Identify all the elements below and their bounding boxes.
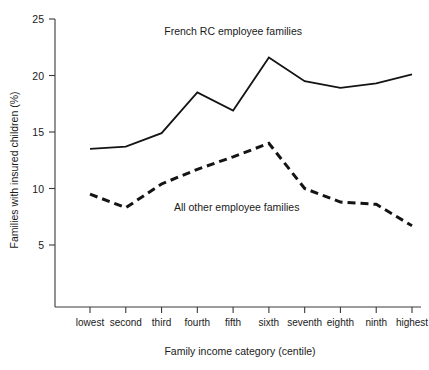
y-axis-title: Families with insured children (%) xyxy=(8,92,20,249)
y-axis-ticks: 510152025 xyxy=(32,13,55,251)
x-tick-label-sixth: sixth xyxy=(259,317,280,328)
y-tick-label: 10 xyxy=(32,183,44,195)
x-axis-title: Family income category (centile) xyxy=(164,345,315,357)
y-tick-label: 20 xyxy=(32,70,44,82)
x-tick-label-fifth: fifth xyxy=(225,317,241,328)
x-tick-label-seventh: seventh xyxy=(287,317,322,328)
x-tick-label-ninth: ninth xyxy=(365,317,387,328)
x-tick-label-third: third xyxy=(152,317,171,328)
x-tick-label-lowest: lowest xyxy=(76,317,105,328)
x-tick-label-fourth: fourth xyxy=(185,317,211,328)
annotation-all-other-employee-families: All other employee families xyxy=(174,201,299,213)
y-tick-label: 15 xyxy=(32,126,44,138)
line-chart: 510152025 lowestsecondthirdfourthfifthsi… xyxy=(0,0,429,370)
series-line-french-rc xyxy=(90,57,412,149)
series-line-all-other xyxy=(90,143,412,225)
x-tick-label-second: second xyxy=(110,317,142,328)
x-axis-ticks: lowestsecondthirdfourthfifthsixthseventh… xyxy=(76,307,429,328)
y-tick-label: 25 xyxy=(32,13,44,25)
x-tick-label-highest: highest xyxy=(396,317,428,328)
annotation-french-rc-employee-families: French RC employee families xyxy=(164,25,302,37)
chart-container: 510152025 lowestsecondthirdfourthfifthsi… xyxy=(0,0,429,370)
y-tick-label: 5 xyxy=(38,239,44,251)
x-tick-label-eighth: eighth xyxy=(327,317,354,328)
